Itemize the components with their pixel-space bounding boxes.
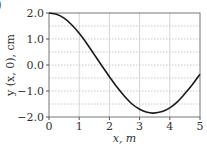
x-tick-label: 1 (76, 120, 83, 133)
y-tick-label: −2.0 (17, 111, 44, 124)
x-tick-label: 4 (166, 120, 173, 133)
x-axis-title: x, m (113, 132, 137, 145)
x-tick-label: 5 (197, 120, 204, 133)
y-axis-title: y (x, 0), cm (4, 33, 17, 97)
y-tick-label: 2.0 (27, 7, 45, 20)
data-curve (49, 13, 200, 113)
x-tick-label: 3 (136, 120, 143, 133)
y-tick-label: 1.0 (27, 33, 45, 46)
line-chart: 0123452.01.00.0−1.0−2.0 x, m y (x, 0), c… (0, 0, 207, 146)
y-tick-label: 0.0 (27, 59, 45, 72)
x-tick-label: 0 (46, 120, 53, 133)
y-tick-label: −1.0 (17, 85, 44, 98)
